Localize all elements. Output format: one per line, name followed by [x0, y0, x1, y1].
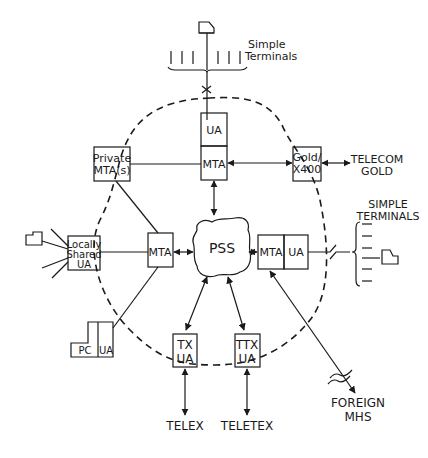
locally-shared-label-3: UA — [77, 259, 91, 270]
pc-ua-label: UA — [99, 345, 113, 356]
system-boundary — [94, 98, 326, 365]
right-ua-label: UA — [288, 246, 304, 259]
ttx-ua-label-1: TTX — [235, 338, 259, 352]
private-mta-label-2: MTA(s) — [93, 164, 130, 177]
pss-label: PSS — [209, 240, 235, 256]
teletex-label: TELETEX — [220, 419, 273, 433]
right-mta-label: MTA — [260, 246, 283, 259]
simple-terminals-right-label-2: TERMINALS — [356, 210, 420, 223]
telecom-gold-label-2: GOLD — [361, 165, 393, 178]
pc-label: PC — [78, 345, 91, 356]
terminal-icon-left — [26, 232, 42, 245]
tx-ua-label-2: UA — [177, 352, 195, 366]
gold-label-2: X400 — [293, 163, 322, 176]
message-handling-diagram: Simple Terminals UA MTA Private MTA(s) G… — [0, 0, 428, 458]
simple-terminals-top-label-2: Terminals — [244, 50, 297, 63]
top-mta-label: MTA — [203, 158, 226, 171]
top-ua-label: UA — [206, 124, 222, 137]
simple-terminals-top — [168, 22, 247, 120]
left-mta-label: MTA — [149, 246, 172, 259]
foreign-mhs-label-1: FOREIGN — [331, 396, 385, 410]
telex-label: TELEX — [165, 419, 203, 433]
foreign-mhs-label-2: MHS — [345, 410, 372, 424]
terminal-icon-right — [382, 250, 398, 264]
ttx-ua-label-2: UA — [239, 352, 257, 366]
tx-ua-label-1: TX — [176, 338, 193, 352]
